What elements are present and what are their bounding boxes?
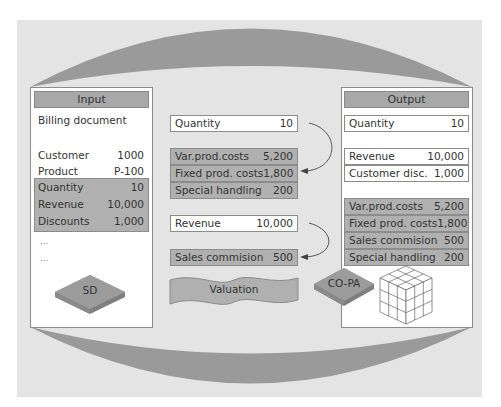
field-label: Sales commision: [349, 233, 437, 248]
field-label: Special handling: [349, 250, 436, 265]
copa-label: CO-PA: [314, 277, 374, 289]
output-field-fixed-prod-costs: Fixed prod. costs 1,800: [344, 215, 469, 232]
field-value: 5,200: [434, 199, 464, 214]
field-value: 1,000: [434, 166, 464, 181]
arrow-head-icon: [300, 254, 308, 260]
valuation-label: Valuation: [170, 283, 298, 295]
field-value: 10: [451, 116, 464, 131]
output-header: Output: [344, 91, 469, 108]
field-label: Customer disc.: [349, 166, 428, 181]
output-field-var-prod-costs: Var.prod.costs 5,200: [344, 198, 469, 215]
output-field-sales-commision: Sales commision 500: [344, 232, 469, 249]
field-label: Fixed prod. costs: [349, 216, 437, 231]
arrow-head-icon: [300, 168, 308, 174]
field-value: 200: [444, 250, 464, 265]
field-label: Revenue: [349, 149, 395, 164]
field-label: Var.prod.costs: [349, 199, 423, 214]
field-value: 1,800: [437, 216, 467, 231]
output-field-quantity: Quantity 10: [344, 115, 469, 132]
arrow-curve-icon: [306, 123, 332, 171]
output-field-customer-disc: Customer disc. 1,000: [344, 165, 469, 182]
field-label: Quantity: [349, 116, 394, 131]
arrow-curve-icon: [306, 223, 329, 257]
output-field-revenue: Revenue 10,000: [344, 148, 469, 165]
cube-icon: [378, 264, 436, 326]
field-value: 10,000: [427, 149, 464, 164]
field-value: 500: [444, 233, 464, 248]
